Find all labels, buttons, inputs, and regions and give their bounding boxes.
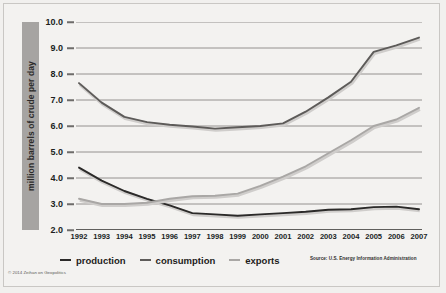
y-tick-label: 8.0 bbox=[50, 69, 63, 79]
legend-label: consumption bbox=[156, 255, 216, 266]
x-tick-label: 2000 bbox=[252, 232, 269, 241]
y-tick-mark bbox=[67, 229, 74, 231]
y-tick-mark bbox=[67, 21, 74, 23]
y-tick-mark bbox=[67, 203, 74, 205]
x-tick-label: 1998 bbox=[207, 232, 224, 241]
x-tick-label: 2005 bbox=[365, 232, 382, 241]
x-tick-label: 2007 bbox=[411, 232, 428, 241]
y-axis-title: million barrels of crude per day bbox=[22, 22, 39, 230]
series-shadow-exports bbox=[80, 109, 420, 205]
legend-item-production: production bbox=[60, 255, 126, 266]
series-shadow-consumption bbox=[80, 39, 420, 130]
x-tick-label: 1996 bbox=[161, 232, 178, 241]
y-tick-mark bbox=[67, 47, 74, 49]
chart-figure: million barrels of crude per day 2.03.04… bbox=[0, 0, 446, 293]
x-tick-label: 1992 bbox=[71, 232, 88, 241]
plot-area bbox=[76, 22, 422, 230]
y-tick-label: 10.0 bbox=[45, 17, 63, 27]
legend-item-consumption: consumption bbox=[140, 255, 216, 266]
legend-label: production bbox=[76, 255, 126, 266]
x-tick-label: 2002 bbox=[297, 232, 314, 241]
x-tick-label: 1999 bbox=[229, 232, 246, 241]
legend-swatch-icon bbox=[60, 259, 71, 261]
copyright-credit: © 2014 Zeihan on Geopolitics bbox=[8, 270, 66, 275]
chart-legend: productionconsumptionexports bbox=[60, 252, 310, 268]
y-axis-title-text: million barrels of crude per day bbox=[26, 61, 36, 191]
y-tick-mark bbox=[67, 177, 74, 179]
y-tick-label: 6.0 bbox=[50, 121, 63, 131]
legend-label: exports bbox=[245, 255, 279, 266]
y-tick-mark bbox=[67, 125, 74, 127]
x-tick-label: 2006 bbox=[388, 232, 405, 241]
y-tick-label: 4.0 bbox=[50, 173, 63, 183]
x-axis-tick-labels: 1992199319941995199619971998199920002001… bbox=[76, 232, 422, 246]
series-line-exports bbox=[79, 108, 419, 204]
source-note: Source: U.S. Energy Information Administ… bbox=[310, 256, 417, 261]
series-line-consumption bbox=[79, 38, 419, 129]
y-tick-mark bbox=[67, 151, 74, 153]
y-tick-label: 2.0 bbox=[50, 225, 63, 235]
y-tick-label: 9.0 bbox=[50, 43, 63, 53]
x-tick-label: 2004 bbox=[343, 232, 360, 241]
legend-item-exports: exports bbox=[229, 255, 279, 266]
x-tick-label: 2003 bbox=[320, 232, 337, 241]
x-tick-label: 2001 bbox=[275, 232, 292, 241]
x-tick-label: 1995 bbox=[139, 232, 156, 241]
y-tick-mark bbox=[67, 73, 74, 75]
y-tick-label: 7.0 bbox=[50, 95, 63, 105]
legend-swatch-icon bbox=[140, 259, 151, 261]
x-tick-label: 1993 bbox=[93, 232, 110, 241]
x-tick-label: 1997 bbox=[184, 232, 201, 241]
line-chart-svg bbox=[76, 22, 422, 230]
y-tick-label: 3.0 bbox=[50, 199, 63, 209]
y-tick-mark bbox=[67, 99, 74, 101]
x-tick-label: 1994 bbox=[116, 232, 133, 241]
y-tick-label: 5.0 bbox=[50, 147, 63, 157]
y-axis-tick-labels: 2.03.04.05.06.07.08.09.010.0 bbox=[48, 22, 74, 230]
legend-swatch-icon bbox=[229, 259, 240, 261]
